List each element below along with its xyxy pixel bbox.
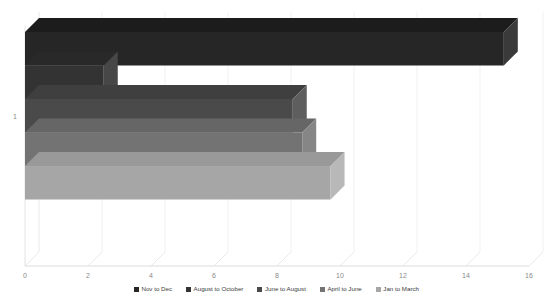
x-tick-label-6: 6: [212, 272, 216, 279]
x-tick-label-8: 8: [275, 272, 279, 279]
x-tick-label-14: 14: [462, 272, 470, 279]
x-tick-label-2: 2: [86, 272, 90, 279]
y-tick-label-1: 1: [13, 113, 17, 120]
legend-swatch-icon: [257, 287, 262, 292]
legend-item-jan-to-march[interactable]: Jan to March: [376, 286, 419, 292]
x-tick-label-4: 4: [149, 272, 153, 279]
legend-item-nov-to-dec[interactable]: Nov to Dec: [134, 286, 172, 292]
bar-chart-plot: 02468101214161: [0, 0, 553, 307]
legend-label: June to August: [265, 286, 306, 292]
legend-swatch-icon: [186, 287, 191, 292]
x-tick-label-0: 0: [23, 272, 27, 279]
x-tick-label-10: 10: [336, 272, 344, 279]
legend-item-april-to-june[interactable]: April to June: [320, 286, 362, 292]
bar-group: [25, 18, 518, 200]
legend-label: April to June: [327, 286, 361, 292]
legend-label: Nov to Dec: [141, 286, 172, 292]
legend-item-june-to-august[interactable]: June to August: [257, 286, 305, 292]
legend-swatch-icon: [320, 287, 325, 292]
x-tick-label-12: 12: [399, 272, 407, 279]
legend-swatch-icon: [134, 287, 139, 292]
legend-label: August to October: [194, 286, 244, 292]
chart-container: 02468101214161 Nov to DecAugust to Octob…: [0, 0, 553, 307]
legend-item-august-to-october[interactable]: August to October: [186, 286, 243, 292]
legend-swatch-icon: [376, 287, 381, 292]
legend-label: Jan to March: [383, 286, 419, 292]
chart-legend: Nov to DecAugust to OctoberJune to Augus…: [0, 286, 553, 292]
x-tick-label-16: 16: [525, 272, 533, 279]
bar-jan-to-march[interactable]: [25, 152, 345, 200]
